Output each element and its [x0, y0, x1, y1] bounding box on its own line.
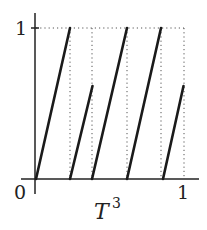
x-axis-label-superscript: 3 [112, 195, 121, 211]
x-axis-label: T [94, 199, 111, 224]
segment-4 [127, 28, 161, 179]
sawtooth-segments [36, 28, 184, 179]
segment-1 [36, 28, 70, 179]
x-tick-label-1: 1 [177, 181, 189, 203]
y-tick-label-1: 1 [15, 17, 27, 39]
segment-3 [92, 28, 127, 179]
x-tick-label-0: 0 [14, 181, 26, 203]
sawtooth-diagram: 1 0 1 T 3 [0, 0, 207, 230]
segment-2 [70, 86, 93, 179]
x-axis-label-main: T [94, 199, 111, 224]
segment-5 [163, 86, 184, 179]
